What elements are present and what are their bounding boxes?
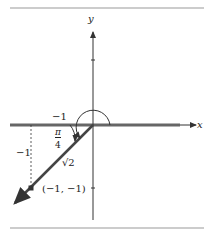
- angle-numerator: π: [55, 128, 61, 138]
- neg1-vertical-label: −1: [16, 148, 31, 158]
- x-axis-label: x: [197, 120, 203, 130]
- small-angle-arc: [70, 125, 75, 141]
- point-label: (−1, −1): [42, 184, 86, 194]
- hypotenuse-label: √2: [62, 158, 75, 168]
- angle-denominator: 4: [55, 141, 61, 150]
- y-axis-label: y: [88, 14, 94, 24]
- polar-diagram: [0, 0, 214, 230]
- neg1-horizontal-label: −1: [52, 112, 67, 122]
- point-marker: [29, 186, 34, 191]
